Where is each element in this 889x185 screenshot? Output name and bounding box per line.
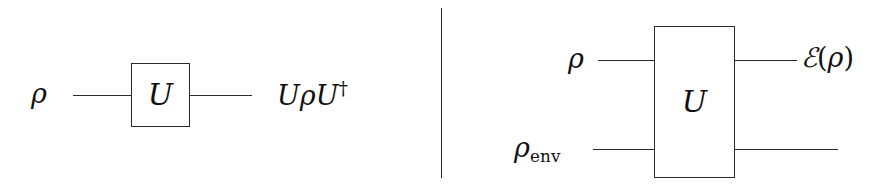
left-output-u-first: U — [277, 80, 300, 111]
left-output-rho: ρ — [300, 80, 316, 111]
left-output-dagger-icon: † — [338, 77, 347, 99]
right-input-environment-state-label: ρenv — [514, 134, 561, 161]
panel-divider — [441, 8, 442, 178]
right-output-close-paren: ) — [843, 42, 854, 73]
left-output-u-second: U — [316, 80, 339, 111]
right-environment-output-wire — [735, 149, 838, 150]
left-gate-label: U — [148, 80, 173, 110]
left-input-state-label: ρ — [31, 80, 47, 107]
left-output-state-label: UρU† — [277, 79, 348, 109]
left-input-wire — [73, 95, 131, 96]
right-unitary-gate-box: U — [654, 26, 735, 178]
right-output-open-paren: ( — [817, 42, 828, 73]
right-input-env-rho: ρ — [514, 132, 530, 163]
right-environment-input-wire — [593, 149, 655, 150]
right-gate-label: U — [682, 87, 707, 117]
right-system-output-wire — [735, 60, 797, 61]
quantum-circuit-figure: ρ U UρU† ρ ρenv U ℰ(ρ) — [0, 0, 889, 185]
right-output-channel-label: ℰ(ρ) — [801, 44, 854, 71]
right-input-system-state-label: ρ — [568, 45, 584, 72]
right-output-script-e: ℰ — [801, 42, 817, 73]
left-unitary-gate-box: U — [131, 63, 190, 127]
right-input-env-subscript: env — [530, 146, 561, 166]
left-output-wire — [190, 95, 252, 96]
right-system-input-wire — [598, 60, 655, 61]
right-output-rho: ρ — [828, 42, 844, 73]
